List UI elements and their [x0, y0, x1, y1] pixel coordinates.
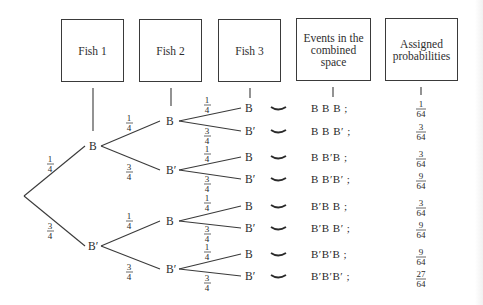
svg-text:4: 4: [205, 105, 210, 115]
correspondence-marks: [271, 107, 286, 278]
svg-text:1: 1: [48, 154, 53, 164]
edge-l3-2: [179, 121, 241, 131]
tilde-icon: [271, 227, 286, 230]
svg-text:1: 1: [205, 144, 210, 154]
svg-text:3: 3: [419, 122, 424, 132]
event-label: B′B′B′ ;: [311, 270, 350, 282]
svg-text:3: 3: [205, 126, 210, 136]
tree-lines: [24, 87, 421, 276]
event-label: B′B B ;: [311, 200, 347, 212]
svg-text:4: 4: [48, 164, 53, 174]
edge-l3-4: [179, 170, 241, 179]
svg-text:64: 64: [417, 279, 427, 289]
svg-text:64: 64: [417, 208, 427, 218]
svg-text:3: 3: [205, 273, 210, 283]
root-prob-1: 1 4: [47, 154, 54, 174]
svg-text:64: 64: [417, 132, 427, 142]
svg-text:3: 3: [205, 174, 210, 184]
node-level3: B: [245, 102, 253, 114]
edge-root-B: [24, 146, 85, 196]
node-level2-B-2: B: [166, 215, 174, 227]
tilde-icon: [271, 205, 286, 208]
node-level3: B: [245, 200, 253, 212]
node-level3: B′: [245, 270, 255, 282]
event-label: B B′B ;: [311, 151, 347, 163]
probabilities-column: 1 64 3 64 3 64 9 64 3 64 9 64 9 64 27 64: [416, 99, 426, 289]
svg-text:4: 4: [205, 203, 210, 213]
svg-text:3: 3: [419, 149, 424, 159]
svg-text:64: 64: [417, 230, 427, 240]
l2-prob-4: 3 4: [126, 262, 133, 282]
svg-text:9: 9: [419, 171, 424, 181]
svg-text:1: 1: [127, 211, 132, 221]
node-level3: B′: [245, 125, 255, 137]
edge-l3-7: [179, 254, 241, 269]
l2-prob-1: 1 4: [126, 113, 133, 133]
tilde-icon: [271, 275, 286, 278]
node-level2-B-1: B: [166, 115, 174, 127]
tilde-icon: [271, 107, 286, 110]
node-level2-Bp-2: B′: [166, 263, 176, 275]
svg-text:1: 1: [419, 99, 424, 109]
svg-text:4: 4: [205, 252, 210, 262]
svg-text:64: 64: [417, 257, 427, 267]
root-prob-2: 3 4: [47, 221, 54, 241]
event-label: B B′B′ ;: [311, 173, 350, 185]
event-label: B′B′B ;: [311, 248, 347, 260]
tilde-icon: [271, 156, 286, 159]
svg-text:27: 27: [417, 269, 427, 279]
event-label: B′B B′ ;: [311, 222, 350, 234]
edge-l3-3: [179, 157, 241, 170]
edge-l3-6: [179, 221, 241, 228]
svg-text:3: 3: [127, 162, 132, 172]
svg-text:1: 1: [205, 242, 210, 252]
node-level3: B: [245, 151, 253, 163]
tree-diagram: B B′ 1 4 3 4 B B′ B B′ 1 4 3 4 1 4 3 4 1…: [0, 0, 483, 305]
svg-text:1: 1: [127, 113, 132, 123]
svg-text:3: 3: [205, 224, 210, 234]
l2-prob-3: 1 4: [126, 211, 133, 231]
svg-text:4: 4: [205, 283, 210, 293]
svg-text:3: 3: [127, 262, 132, 272]
svg-text:64: 64: [417, 181, 427, 191]
svg-text:64: 64: [417, 159, 427, 169]
svg-text:4: 4: [127, 123, 132, 133]
edge-l3-1: [179, 108, 241, 121]
node-level2-Bp-1: B′: [166, 164, 176, 176]
node-level3: B′: [245, 222, 255, 234]
event-label: B B B′ ;: [311, 125, 351, 137]
svg-text:4: 4: [48, 231, 53, 241]
edge-root-Bp: [24, 196, 85, 246]
svg-text:4: 4: [127, 172, 132, 182]
svg-text:1: 1: [205, 95, 210, 105]
svg-text:4: 4: [127, 272, 132, 282]
edge-l3-8: [179, 269, 241, 276]
node-level3: B: [245, 248, 253, 260]
event-label: B B B ;: [311, 102, 348, 114]
svg-text:4: 4: [205, 154, 210, 164]
svg-text:9: 9: [419, 220, 424, 230]
node-level1-Bp: B′: [88, 240, 98, 252]
events-column: B B B ; B B B′ ; B B′B ; B B′B′ ; B′B B …: [311, 102, 351, 282]
tilde-icon: [271, 253, 286, 256]
svg-text:3: 3: [419, 198, 424, 208]
svg-text:3: 3: [48, 221, 53, 231]
l3-nodes: B B′ B B′ B B′ B B′: [245, 102, 255, 282]
node-level3: B′: [245, 173, 255, 185]
node-level1-B: B: [89, 140, 97, 152]
svg-text:1: 1: [205, 193, 210, 203]
edge-l3-5: [179, 206, 241, 221]
svg-text:64: 64: [417, 109, 427, 119]
tilde-icon: [271, 178, 286, 181]
svg-text:9: 9: [419, 247, 424, 257]
svg-text:4: 4: [127, 221, 132, 231]
tilde-icon: [271, 130, 286, 133]
l2-prob-2: 3 4: [126, 162, 133, 182]
